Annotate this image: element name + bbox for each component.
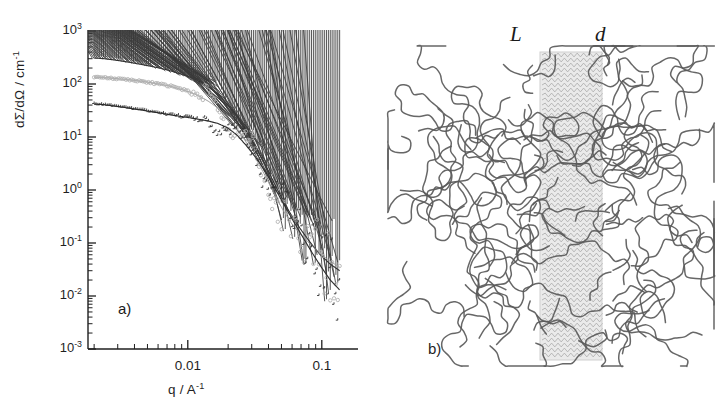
x-axis-label: q / A-1 bbox=[168, 382, 205, 397]
y-axis-label-text: dΣ/dΩ / cm bbox=[12, 60, 27, 128]
y-axis-label: dΣ/dΩ / cm-1 bbox=[12, 51, 27, 128]
ytick-label-1e0: 100 bbox=[36, 181, 82, 196]
x-axis-label-text: q / A bbox=[168, 382, 196, 397]
xtick-label-0-1: 0.1 bbox=[292, 358, 352, 373]
ytick-label-1e3: 103 bbox=[36, 22, 82, 37]
panel-b-lamella-schematic: L d b) bbox=[380, 0, 722, 412]
panel-b-tag: b) bbox=[428, 340, 441, 357]
panel-a-tag: a) bbox=[118, 300, 131, 317]
series-sample-1-triangles bbox=[58, 0, 339, 301]
ytick-label-1e-1: 10-1 bbox=[36, 234, 82, 249]
ytick-label-1e1: 101 bbox=[36, 128, 82, 143]
label-d-crystal-thickness: d bbox=[595, 22, 606, 47]
x-axis-label-exponent: -1 bbox=[196, 381, 205, 391]
panel-a-scattering-plot: 103 102 101 100 10-1 10-2 10-3 0.01 0.1 … bbox=[0, 0, 380, 412]
ytick-label-1e-3: 10-3 bbox=[36, 340, 82, 355]
plot-data-layer bbox=[58, 0, 341, 320]
label-L-amorphous-thickness: L bbox=[510, 22, 522, 47]
ytick-label-1e2: 102 bbox=[36, 75, 82, 90]
figure-root: 103 102 101 100 10-1 10-2 10-3 0.01 0.1 … bbox=[0, 0, 722, 412]
xtick-label-0-01: 0.01 bbox=[158, 358, 218, 373]
y-axis-label-exponent: -1 bbox=[11, 51, 21, 60]
ytick-label-1e-2: 10-2 bbox=[36, 287, 82, 302]
